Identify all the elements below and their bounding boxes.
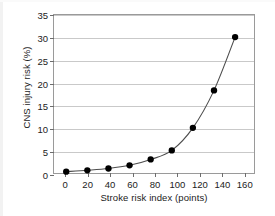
x-tick-mark: [177, 173, 178, 177]
y-tick-label: 10: [37, 124, 48, 135]
data-point: [84, 167, 90, 173]
y-axis-title: CNS injury risk (%): [21, 18, 32, 158]
y-tick-label: 20: [37, 78, 48, 89]
x-tick-mark: [88, 173, 89, 177]
x-tick-mark: [155, 173, 156, 177]
x-tick-label: 120: [192, 179, 208, 190]
x-tick-mark: [245, 173, 246, 177]
x-tick-label: 40: [105, 179, 116, 190]
data-point-group: [63, 34, 238, 175]
data-point: [232, 34, 238, 40]
x-tick-label: 100: [170, 179, 186, 190]
y-tick-label: 30: [37, 32, 48, 43]
y-tick-label: 35: [37, 10, 48, 21]
data-point: [147, 156, 153, 162]
x-tick-label: 140: [214, 179, 230, 190]
chart-figure: CNS injury risk (%) Stroke risk index (p…: [0, 0, 275, 216]
y-tick-label: 25: [37, 55, 48, 66]
data-point: [126, 162, 132, 168]
data-curve: [66, 37, 235, 172]
y-tick-label: 0: [43, 170, 48, 181]
x-tick-label: 60: [127, 179, 138, 190]
data-point: [105, 165, 111, 171]
data-point: [190, 125, 196, 131]
y-tick-mark: [50, 175, 54, 176]
data-point: [169, 147, 175, 153]
x-tick-mark: [110, 173, 111, 177]
x-tick-mark: [133, 173, 134, 177]
data-point: [211, 87, 217, 93]
data-point: [63, 168, 69, 174]
x-tick-label: 80: [150, 179, 161, 190]
x-tick-mark: [222, 173, 223, 177]
x-tick-label: 0: [63, 179, 68, 190]
x-tick-label: 20: [82, 179, 93, 190]
scan-edge-left: [0, 0, 3, 216]
y-tick-label: 15: [37, 101, 48, 112]
x-tick-label: 160: [237, 179, 253, 190]
data-series-layer: [54, 15, 254, 173]
x-axis-title: Stroke risk index (points): [52, 192, 256, 203]
x-tick-mark: [200, 173, 201, 177]
scan-edge-top: [0, 0, 275, 2]
plot-area: 05101520253035 020406080100120140160: [53, 14, 255, 174]
y-tick-label: 5: [43, 147, 48, 158]
